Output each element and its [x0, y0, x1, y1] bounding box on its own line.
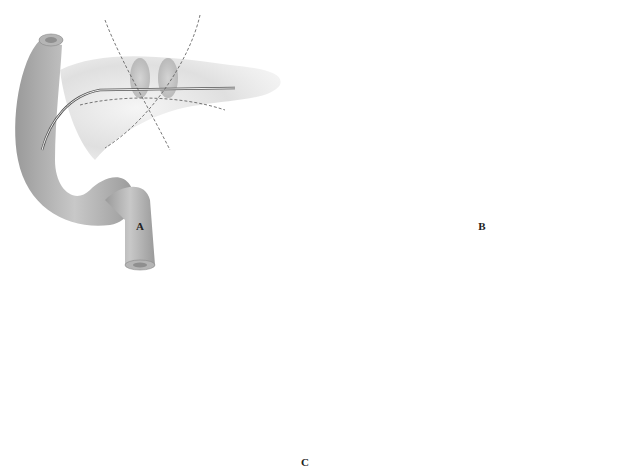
panel-label-a: A	[130, 220, 150, 232]
panel-label-c: C	[295, 456, 315, 468]
figure-canvas	[0, 0, 630, 474]
panel-label-b: B	[472, 220, 492, 232]
